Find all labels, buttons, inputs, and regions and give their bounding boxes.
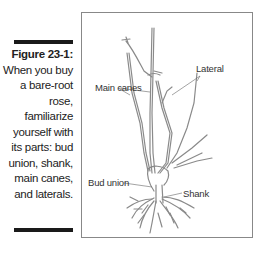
figure-frame: Main canes Lateral Bud union Shank (81, 12, 253, 238)
callout-main-canes: Main canes (95, 82, 142, 93)
callout-bud-union: Bud union (88, 177, 129, 188)
figure-caption-text: When you buy a bare-root rose, familiari… (3, 64, 73, 200)
caption-top-rule (14, 40, 73, 44)
figure-label: Figure 23-1: (2, 47, 73, 63)
callout-shank: Shank (183, 188, 209, 199)
figure-caption: Figure 23-1: When you buy a bare-root ro… (2, 47, 73, 202)
caption-bottom-rule (14, 228, 73, 232)
rose-illustration (82, 13, 252, 237)
callout-lateral: Lateral (196, 63, 224, 74)
